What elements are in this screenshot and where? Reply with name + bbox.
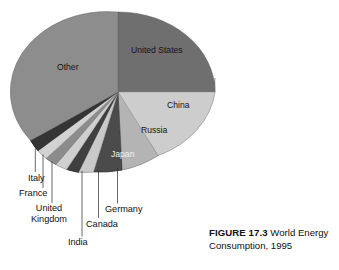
callout-label-canada: Canada: [86, 219, 118, 230]
pie-label-russia: Russia: [141, 125, 167, 135]
callout-label-united-kingdom-line1: United: [16, 203, 82, 214]
callout-label-india: India: [68, 237, 88, 248]
callout-label-france: France: [19, 188, 47, 199]
figure-caption-line2: Consumption, 1995: [209, 240, 292, 251]
figure-caption: FIGURE 17.3 World EnergyConsumption, 199…: [209, 227, 337, 252]
callout-label-italy: Italy: [28, 173, 45, 184]
callout-label-germany: Germany: [105, 204, 142, 215]
figure-caption-line1: World Energy: [270, 227, 328, 238]
pie-label-other: Other: [57, 62, 79, 72]
pie-label-china: China: [167, 100, 190, 110]
pie-top-faces: [10, 12, 215, 173]
figure-container: United States China Russia Japan Other I…: [0, 0, 339, 270]
pie-label-united-states: United States: [131, 45, 183, 55]
pie-label-japan: Japan: [111, 149, 135, 159]
callout-label-united-kingdom: United Kingdom: [16, 203, 82, 225]
callout-label-united-kingdom-line2: Kingdom: [16, 214, 82, 225]
figure-caption-number: FIGURE 17.3: [209, 227, 268, 238]
